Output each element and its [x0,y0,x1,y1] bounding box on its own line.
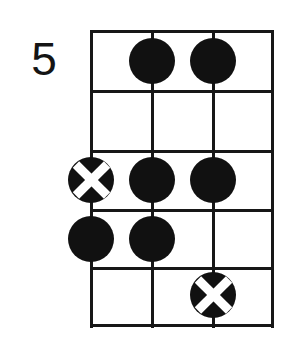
chord-diagram: 5 [0,0,290,338]
cross-fret5-string3-icon [190,272,236,318]
fretboard-grid [0,0,290,338]
cross-fret3-string1-icon [68,157,114,203]
dot-fret4-string2-icon [129,216,175,262]
fret-line-4 [90,267,274,270]
fret-line-1 [90,90,274,93]
fret-line-0 [90,30,274,33]
fret-line-3 [90,209,274,212]
dot-fret1-string2-icon [129,38,175,84]
dot-fret3-string2-icon [129,157,175,203]
dot-fret4-string1-icon [68,216,114,262]
fret-line-5 [90,324,274,327]
string-line-4 [271,31,274,328]
fret-line-2 [90,150,274,153]
dot-fret1-string3-icon [190,38,236,84]
dot-fret3-string3-icon [190,157,236,203]
